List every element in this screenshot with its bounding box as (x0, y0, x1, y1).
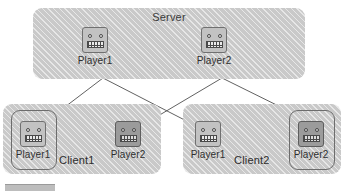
server-player2[interactable]: Player2 (191, 27, 237, 66)
robot-eye-left-icon (304, 128, 308, 132)
robot-eye-right-icon (212, 128, 216, 132)
robot-mouth-icon (200, 135, 217, 142)
player-label: Player1 (72, 55, 118, 66)
diagram-canvas: Server Player1 Player2 (0, 0, 344, 191)
player-label: Player1 (10, 149, 56, 160)
robot-mouth-icon (25, 135, 42, 142)
client2-player1[interactable]: Player1 (185, 121, 231, 160)
client1-player1[interactable]: Player1 (10, 121, 56, 160)
player-label: Player2 (191, 55, 237, 66)
client1-panel: Player1 Client1 Player2 (3, 104, 161, 174)
robot-eye-right-icon (132, 128, 136, 132)
robot-icon (298, 121, 324, 147)
robot-eye-left-icon (201, 128, 205, 132)
robot-eye-right-icon (315, 128, 319, 132)
robot-mouth-icon (303, 135, 320, 142)
player-label: Player2 (288, 149, 334, 160)
client2-player2[interactable]: Player2 (288, 121, 334, 160)
player-label: Player1 (185, 149, 231, 160)
robot-mouth-icon (120, 135, 137, 142)
server-title: Server (33, 11, 305, 23)
robot-icon (201, 27, 227, 53)
client2-panel: Player1 Client2 Player2 (183, 104, 341, 174)
robot-eye-left-icon (88, 34, 92, 38)
robot-icon (195, 121, 221, 147)
robot-eye-right-icon (99, 34, 103, 38)
figure-caption-bar (5, 184, 55, 191)
robot-mouth-icon (206, 41, 223, 48)
robot-icon (115, 121, 141, 147)
robot-icon (82, 27, 108, 53)
robot-eye-right-icon (218, 34, 222, 38)
robot-mouth-icon (87, 41, 104, 48)
server-panel: Server Player1 Player2 (33, 8, 305, 79)
client1-player2[interactable]: Player2 (105, 121, 151, 160)
client2-label: Client2 (234, 154, 270, 166)
server-player1[interactable]: Player1 (72, 27, 118, 66)
robot-icon (20, 121, 46, 147)
robot-eye-left-icon (207, 34, 211, 38)
robot-eye-left-icon (26, 128, 30, 132)
client1-label: Client1 (59, 154, 95, 166)
player-label: Player2 (105, 149, 151, 160)
robot-eye-right-icon (37, 128, 41, 132)
robot-eye-left-icon (121, 128, 125, 132)
